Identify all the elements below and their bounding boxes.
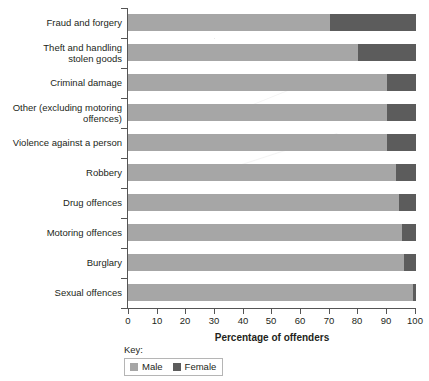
bar-segment-male-criminal-damage[interactable] [128, 74, 387, 91]
legend-title: Key: [124, 344, 143, 355]
y-axis-tick [121, 158, 127, 159]
stacked-bar-chart: Fraud and forgery Theft and handling sto… [0, 0, 429, 381]
x-axis-tick [415, 309, 416, 314]
x-axis-tick-label-10: 10 [152, 315, 163, 326]
bar-row-robbery [128, 158, 416, 188]
bar-segment-female-violence-against-a-person[interactable] [387, 134, 416, 151]
y-axis-label-fraud-and-forgery: Fraud and forgery [0, 8, 122, 38]
y-axis-tick [121, 218, 127, 219]
x-axis-tick [243, 309, 244, 314]
bar-row-theft-and-handling-stolen-goods [128, 38, 416, 68]
x-axis-tick-label-100: 100 [407, 315, 423, 326]
bar-segment-male-other-excluding-motoring-offences[interactable] [128, 104, 387, 121]
bar-row-burglary [128, 248, 416, 278]
bar-row-motoring-offences [128, 218, 416, 248]
bar-segment-male-sexual-offences[interactable] [128, 284, 413, 301]
x-axis-tick-label-70: 70 [324, 315, 335, 326]
legend: Male Female [124, 358, 223, 376]
x-axis-tick [300, 309, 301, 314]
bar-segment-female-criminal-damage[interactable] [387, 74, 416, 91]
y-axis-tick [121, 248, 127, 249]
bar-stack [128, 104, 416, 121]
y-axis-label-drug-offences: Drug offences [0, 188, 122, 218]
bar-segment-female-other-excluding-motoring-offences[interactable] [387, 104, 416, 121]
y-axis-tick [121, 98, 127, 99]
y-axis-label-other-excluding-motoring-offences: Other (excluding motoring offences) [0, 98, 122, 128]
bar-stack [128, 254, 416, 271]
x-axis-tick-label-60: 60 [295, 315, 306, 326]
x-axis-tick-label-50: 50 [266, 315, 277, 326]
bar-segment-male-drug-offences[interactable] [128, 194, 399, 211]
square-swatch-icon [173, 363, 181, 371]
bar-segment-female-fraud-and-forgery[interactable] [330, 14, 416, 31]
bar-segment-male-violence-against-a-person[interactable] [128, 134, 387, 151]
legend-item-male[interactable]: Male [130, 361, 163, 372]
y-axis-label-theft-and-handling-stolen-goods: Theft and handling stolen goods [0, 38, 122, 68]
x-axis-tick-label-40: 40 [238, 315, 249, 326]
bar-row-other-excluding-motoring-offences [128, 98, 416, 128]
bar-segment-male-robbery[interactable] [128, 164, 396, 181]
bar-row-sexual-offences [128, 278, 416, 308]
bar-segment-male-theft-and-handling-stolen-goods[interactable] [128, 44, 358, 61]
bar-series-area [128, 8, 416, 308]
y-axis-tick [121, 68, 127, 69]
y-axis-label-burglary: Burglary [0, 248, 122, 278]
y-axis-label-sexual-offences: Sexual offences [0, 278, 122, 308]
y-axis-label-robbery: Robbery [0, 158, 122, 188]
legend-item-female[interactable]: Female [173, 361, 217, 372]
x-axis-tick [357, 309, 358, 314]
bar-stack [128, 164, 416, 181]
x-axis-tick [185, 309, 186, 314]
y-axis-label-motoring-offences: Motoring offences [0, 218, 122, 248]
bar-stack [128, 14, 416, 31]
bar-stack [128, 284, 416, 301]
x-axis-title: Percentage of offenders [128, 332, 416, 343]
bar-segment-female-motoring-offences[interactable] [402, 224, 416, 241]
bar-segment-female-drug-offences[interactable] [399, 194, 416, 211]
y-axis-label-violence-against-a-person: Violence against a person [0, 128, 122, 158]
y-axis-tick [121, 188, 127, 189]
legend-item-male-label: Male [142, 361, 163, 372]
bar-stack [128, 134, 416, 151]
legend-item-female-label: Female [185, 361, 217, 372]
x-axis-tick [128, 309, 129, 314]
bar-segment-female-sexual-offences[interactable] [413, 284, 416, 301]
bar-segment-male-fraud-and-forgery[interactable] [128, 14, 330, 31]
bar-row-fraud-and-forgery [128, 8, 416, 38]
x-axis-tick-label-20: 20 [180, 315, 191, 326]
bar-stack [128, 194, 416, 211]
y-axis-tick [121, 128, 127, 129]
x-axis-tick [157, 309, 158, 314]
bar-stack [128, 74, 416, 91]
x-axis-tick [386, 309, 387, 314]
y-axis-tick [121, 278, 127, 279]
y-axis-label-criminal-damage: Criminal damage [0, 68, 122, 98]
x-axis-tick [329, 309, 330, 314]
bar-stack [128, 44, 416, 61]
square-swatch-icon [130, 363, 138, 371]
bar-row-criminal-damage [128, 68, 416, 98]
y-axis-tick [121, 38, 127, 39]
bar-segment-male-motoring-offences[interactable] [128, 224, 402, 241]
y-axis-category-labels: Fraud and forgery Theft and handling sto… [0, 8, 122, 308]
bar-segment-female-theft-and-handling-stolen-goods[interactable] [358, 44, 416, 61]
bar-stack [128, 224, 416, 241]
x-axis-tick-label-30: 30 [209, 315, 220, 326]
bar-row-drug-offences [128, 188, 416, 218]
x-axis-tick-label-80: 80 [352, 315, 363, 326]
x-axis-tick-label-90: 90 [381, 315, 392, 326]
x-axis-tick [271, 309, 272, 314]
y-axis-tick [121, 308, 127, 309]
y-axis-tick [121, 8, 127, 9]
bar-segment-female-burglary[interactable] [404, 254, 416, 271]
bar-segment-female-robbery[interactable] [396, 164, 416, 181]
bar-row-violence-against-a-person [128, 128, 416, 158]
bar-segment-male-burglary[interactable] [128, 254, 404, 271]
x-axis-tick-label-0: 0 [125, 315, 130, 326]
x-axis-tick [214, 309, 215, 314]
